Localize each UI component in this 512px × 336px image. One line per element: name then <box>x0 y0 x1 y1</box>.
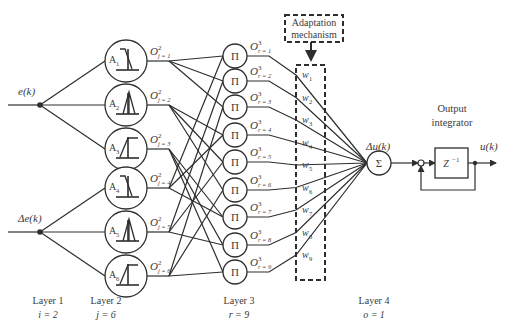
input-to-membership-line <box>40 188 105 232</box>
label-sub: r = 2 <box>258 72 272 79</box>
weight-sub: 1 <box>309 75 312 82</box>
label-sup: 2 <box>158 215 162 222</box>
membership-label-sub: 5 <box>116 231 119 238</box>
weight-symbol: w <box>302 137 309 148</box>
label-sup: 2 <box>158 259 162 266</box>
label-main: O <box>250 174 258 186</box>
weight-sub: 8 <box>309 233 312 240</box>
rule-connection-line <box>169 56 223 188</box>
rule-connection-line <box>169 61 223 107</box>
rule-node-9: Π <box>223 260 247 284</box>
label-main: O <box>150 89 158 101</box>
weight-symbol: w <box>302 114 309 125</box>
output-u-label: u(k) <box>480 140 498 153</box>
label-sup: 3 <box>258 90 262 97</box>
weight-sub: 5 <box>309 165 312 172</box>
membership-node-2: A2 <box>105 84 147 126</box>
delta-u-label: Δu(k) <box>365 140 391 153</box>
label-main: O <box>250 91 258 103</box>
label-sup: 3 <box>258 39 262 46</box>
product-symbol: Π <box>231 75 239 87</box>
adaptation-arrow-down-icon <box>305 50 317 62</box>
input-junction-dot <box>37 102 43 108</box>
rule-connection-line <box>169 135 223 188</box>
rule-node-5: Π <box>223 150 247 174</box>
rule-output-label: O3r = 3 <box>250 90 271 105</box>
rule-output-label: O3r = 2 <box>250 64 272 79</box>
label-sub: r = 9 <box>258 263 272 270</box>
adaptation-label-line1: Adaptation <box>292 17 336 28</box>
input-label-e: e(k) <box>18 85 35 98</box>
rule-connection-line <box>169 149 223 217</box>
layer-label-1: Layer 1 <box>33 295 64 306</box>
label-main: O <box>250 256 258 268</box>
membership-output-label: O2j = 6 <box>150 259 171 274</box>
product-symbol: Π <box>231 211 239 223</box>
weight-sub: 6 <box>309 188 313 195</box>
product-symbol: Π <box>231 129 239 141</box>
layer-label-3: Layer 3 <box>224 295 255 306</box>
rule-output-label: O3r = 6 <box>250 173 272 188</box>
label-sup: 2 <box>158 44 162 51</box>
layer-count-2: j = 6 <box>94 309 116 320</box>
rule-node-3: Π <box>223 95 247 119</box>
membership-output-label: O2j = 2 <box>150 88 171 103</box>
weight-sub: 3 <box>309 120 312 127</box>
product-symbol: Π <box>231 239 239 251</box>
product-symbol: Π <box>231 184 239 196</box>
membership-label-sub: 1 <box>116 60 119 67</box>
weight-symbol: w <box>302 92 309 103</box>
membership-node-3: A3 <box>105 128 147 170</box>
rule-output-label: O3r = 7 <box>250 200 272 215</box>
label-sup: 2 <box>158 88 162 95</box>
label-main: O <box>150 216 158 228</box>
weight-label-9: w9 <box>302 249 312 262</box>
weight-symbol: w <box>302 69 309 80</box>
label-main: O <box>150 45 158 57</box>
fuzzy-neural-network-diagram: A1A2A3A4A5A6ΠΠΠΠΠΠΠΠΠAdaptationmechanism… <box>0 0 512 336</box>
weight-symbol: w <box>302 249 309 260</box>
input-to-membership-line <box>40 61 105 105</box>
weight-sub: 2 <box>309 98 312 105</box>
input-to-membership-line <box>40 105 105 149</box>
membership-output-label: O2j = 4 <box>150 171 171 186</box>
label-sub: j = 5 <box>157 223 170 230</box>
label-sup: 3 <box>258 173 262 180</box>
label-sub: r = 6 <box>258 181 272 188</box>
label-sub: j = 6 <box>157 267 171 274</box>
rule-output-label: O3r = 8 <box>250 228 272 243</box>
adaptation-mechanism-box: Adaptationmechanism <box>285 15 343 62</box>
membership-output-label: O2j = 1 <box>150 44 170 59</box>
adaptation-label-line2: mechanism <box>291 29 337 40</box>
label-main: O <box>250 229 258 241</box>
rule-node-6: Π <box>223 178 247 202</box>
integrator-title-line2: integrator <box>432 117 473 128</box>
label-main: O <box>150 172 158 184</box>
layer-label-2: Layer 2 <box>91 295 122 306</box>
rule-output-label: O3r = 1 <box>250 39 271 54</box>
weight-label-1: w1 <box>302 69 312 82</box>
product-symbol: Π <box>231 156 239 168</box>
rule-node-8: Π <box>223 233 247 257</box>
layer-label-4: Layer 4 <box>359 295 390 306</box>
label-sup: 3 <box>258 200 262 207</box>
label-sup: 2 <box>158 171 162 178</box>
delay-sup: −1 <box>452 156 460 164</box>
weight-symbol: w <box>302 159 309 170</box>
weight-label-7: w7 <box>302 204 313 217</box>
rule-node-4: Π <box>223 123 247 147</box>
rule-connection-line <box>169 56 223 61</box>
input-junction-dot <box>37 229 43 235</box>
input-label-delta-e: Δe(k) <box>17 212 42 225</box>
product-symbol: Π <box>231 50 239 62</box>
label-sub: r = 1 <box>258 47 271 54</box>
label-main: O <box>150 260 158 272</box>
membership-node-6: A6 <box>105 255 147 297</box>
membership-label-sub: 2 <box>116 104 119 111</box>
label-sub: r = 4 <box>258 126 272 133</box>
rule-connection-line <box>169 107 223 276</box>
delay-symbol: Z <box>443 158 449 169</box>
membership-node-1: A1 <box>105 40 147 82</box>
product-symbol: Π <box>231 101 239 113</box>
label-sup: 2 <box>158 132 162 139</box>
